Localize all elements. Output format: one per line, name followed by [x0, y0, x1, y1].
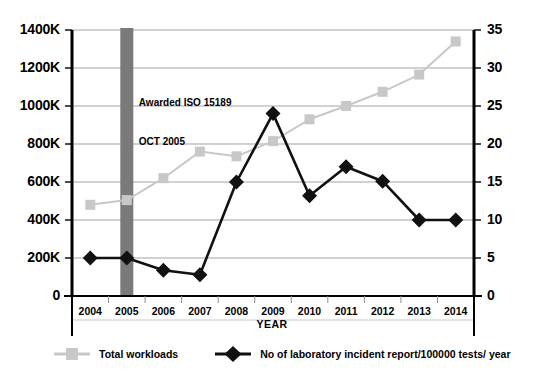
data-point: [156, 263, 171, 278]
left-axis-tick-label: 400K: [0, 211, 60, 227]
data-point: [85, 200, 95, 210]
x-axis-tick-label: 2004: [72, 305, 109, 317]
x-axis-tick-label: 2012: [364, 305, 401, 317]
legend-label-incident-reports: No of laboratory incident report/100000 …: [260, 348, 510, 360]
left-axis-tick-label: 1400K: [0, 21, 60, 37]
right-axis-tick-label: 15: [487, 173, 502, 189]
right-axis-tick-label: 35: [487, 21, 502, 37]
x-axis-title: YEAR: [0, 318, 544, 330]
diamond-marker-icon: [213, 346, 253, 362]
data-point: [192, 267, 207, 282]
data-point: [341, 101, 351, 111]
data-point: [414, 70, 424, 80]
right-axis-tick-label: 25: [487, 97, 502, 113]
chart-legend: Total workloads No of laboratory inciden…: [52, 346, 511, 362]
data-point: [158, 173, 168, 183]
right-axis-tick-label: 5: [487, 249, 495, 265]
x-axis-tick-label: 2009: [255, 305, 292, 317]
right-axis-tick-label: 20: [487, 135, 502, 151]
left-axis-tick-label: 1000K: [0, 97, 60, 113]
data-point: [378, 87, 388, 97]
x-axis-tick-label: 2008: [218, 305, 255, 317]
x-axis-tick-label: 2010: [291, 305, 328, 317]
square-marker-icon: [52, 346, 92, 362]
iso-award-annotation: Awarded ISO 15189 OCT 2005: [139, 70, 232, 174]
right-axis-tick-label: 10: [487, 211, 502, 227]
left-axis-tick-label: 600K: [0, 173, 60, 189]
left-axis-tick-label: 1200K: [0, 59, 60, 75]
x-axis-tick-label: 2005: [109, 305, 146, 317]
right-axis-tick-label: 0: [487, 287, 495, 303]
data-point: [268, 136, 278, 146]
data-point: [122, 195, 132, 205]
data-point: [229, 175, 244, 190]
legend-label-total-workloads: Total workloads: [99, 348, 178, 360]
legend-item-incident-reports: No of laboratory incident report/100000 …: [213, 346, 510, 362]
left-axis-tick-label: 0: [0, 287, 60, 303]
data-point: [448, 213, 463, 228]
data-point: [83, 251, 98, 266]
annotation-line-2: OCT 2005: [139, 135, 232, 148]
x-axis-tick-label: 2011: [328, 305, 365, 317]
x-axis-tick-label: 2007: [182, 305, 219, 317]
legend-item-total-workloads: Total workloads: [52, 346, 178, 362]
right-axis-tick-label: 30: [487, 59, 502, 75]
chart-figure: 0200K400K600K800K1000K1200K1400K 0510152…: [0, 0, 544, 375]
data-point: [305, 114, 315, 124]
left-axis-tick-label: 800K: [0, 135, 60, 151]
x-axis-tick-label: 2013: [401, 305, 438, 317]
left-axis-tick-label: 200K: [0, 249, 60, 265]
data-point: [232, 151, 242, 161]
data-point: [451, 36, 461, 46]
annotation-line-1: Awarded ISO 15189: [139, 96, 232, 109]
x-axis-tick-label: 2014: [437, 305, 474, 317]
data-point: [266, 106, 281, 121]
x-axis-tick-label: 2006: [145, 305, 182, 317]
